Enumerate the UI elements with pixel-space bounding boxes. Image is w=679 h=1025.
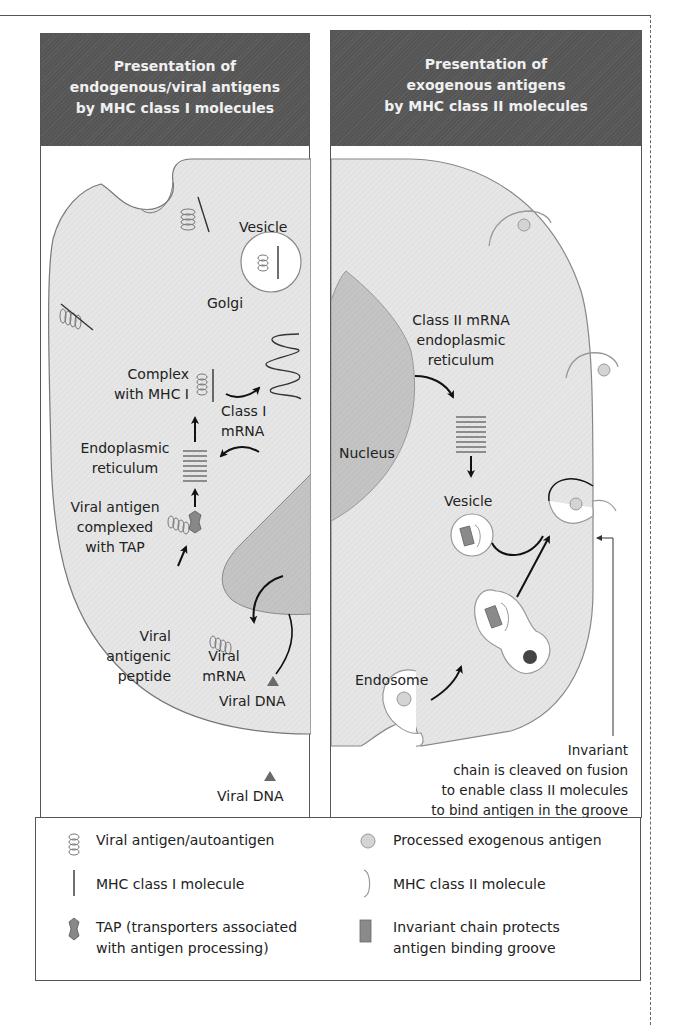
viral-mrna-label: Viral mRNA: [199, 646, 249, 686]
bracket-icon: [361, 868, 377, 900]
legend: Viral antigen/autoantigen MHC class I mo…: [35, 817, 641, 981]
legend-item-mhc-i: MHC class I molecule: [96, 874, 244, 895]
tap-icon: [66, 916, 82, 942]
legend-item-viral-antigen: Viral antigen/autoantigen: [96, 830, 274, 851]
mhc-class-ii-panel: Presentation of exogenous antigens by MH…: [330, 30, 642, 818]
nucleus-label: Nucleus: [339, 443, 395, 463]
invariant-note-label: Invariant chain is cleaved on fusion to …: [361, 740, 628, 820]
er-stack: [183, 451, 207, 481]
endosome-label: Endosome: [355, 670, 428, 690]
vesicle-label: Vesicle: [444, 491, 493, 511]
viral-antigen-tap-label: Viral antigen complexed with TAP: [65, 497, 165, 557]
vesicle-shape: [451, 514, 493, 556]
complex-label: Complex with MHC I: [99, 364, 189, 404]
coil-icon: [66, 830, 82, 860]
viral-dna-outside-label: Viral DNA: [217, 786, 284, 806]
class-i-mrna-label: Class I mRNA: [221, 401, 266, 441]
vesicle-label: Vesicle: [239, 217, 288, 237]
class-ii-er-label: Class II mRNA endoplasmic reticulum: [391, 310, 531, 370]
circle-icon: [359, 832, 377, 850]
mhc-class-ii-diagram: [331, 31, 643, 819]
golgi-label: Golgi: [207, 293, 243, 313]
viral-dna-icon: [264, 771, 276, 781]
rect-icon: [358, 918, 374, 944]
legend-item-invariant-chain: Invariant chain protects antigen binding…: [393, 917, 560, 959]
vesicle-shape: [241, 232, 301, 292]
er-label: Endoplasmic reticulum: [75, 438, 175, 478]
viral-peptide-label: Viral antigenic peptide: [91, 626, 171, 686]
legend-item-mhc-ii: MHC class II molecule: [393, 874, 546, 895]
viral-dna-inside-label: Viral DNA: [219, 691, 286, 711]
legend-item-tap: TAP (transporters associated with antige…: [96, 917, 297, 959]
mhc-class-i-panel: Presentation of endogenous/viral antigen…: [40, 33, 310, 818]
bar-icon: [66, 868, 82, 898]
legend-item-processed-antigen: Processed exogenous antigen: [393, 830, 602, 851]
